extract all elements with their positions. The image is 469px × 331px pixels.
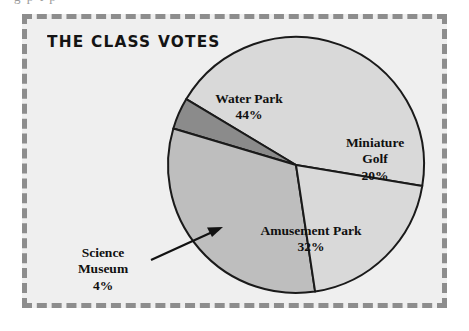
- pie-label-miniature-golf-name-line1: Miniature: [319, 135, 431, 151]
- pie-label-science-museum-name-line1: Science: [41, 245, 165, 261]
- chart-panel-inner: THE CLASS VOTES Water Park 44% Miniature…: [27, 19, 442, 303]
- pie-label-water-park-name: Water Park: [179, 91, 319, 107]
- pie-label-science-museum-value: 4%: [41, 278, 165, 294]
- pie-label-water-park: Water Park 44%: [179, 91, 319, 124]
- pie-label-amusement-park: Amusement Park 32%: [223, 223, 399, 256]
- pie-label-science-museum-name-line2: Museum: [41, 261, 165, 277]
- pie-label-miniature-golf-name-line2: Golf: [319, 151, 431, 167]
- bleed-text: g p t p: [14, 0, 57, 5]
- chart-panel: THE CLASS VOTES Water Park 44% Miniature…: [22, 14, 447, 308]
- pie-label-science-museum: Science Museum 4%: [41, 245, 165, 294]
- pie-label-water-park-value: 44%: [179, 107, 319, 123]
- pie-label-amusement-park-name: Amusement Park: [223, 223, 399, 239]
- pie-label-amusement-park-value: 32%: [223, 239, 399, 255]
- page-top-bleed-text: g p t p: [0, 0, 469, 12]
- pie-label-miniature-golf-value: 20%: [319, 168, 431, 184]
- pie-label-miniature-golf: Miniature Golf 20%: [319, 135, 431, 184]
